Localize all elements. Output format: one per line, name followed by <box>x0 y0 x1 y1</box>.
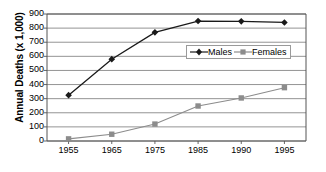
diamond-marker-icon <box>281 19 288 26</box>
square-marker-icon <box>239 95 244 100</box>
diamond-marker-icon <box>190 47 208 57</box>
data-series-layer <box>65 18 287 142</box>
legend-label-males: Males <box>208 47 232 57</box>
square-marker-icon <box>195 103 200 108</box>
plot-area <box>0 0 326 172</box>
square-marker-icon <box>66 136 71 141</box>
legend-label-females: Females <box>252 47 287 57</box>
line-chart: Annual Deaths (x 1,000) 0100200300400500… <box>0 0 326 172</box>
series-females <box>66 85 287 142</box>
square-marker-icon <box>234 47 252 57</box>
gridlines <box>44 14 306 141</box>
legend-entry-females: Females <box>234 47 287 57</box>
axis-lines <box>47 14 306 141</box>
square-marker-icon <box>152 121 157 126</box>
square-marker-icon <box>109 132 114 137</box>
series-line <box>69 88 285 139</box>
legend-entry-males: Males <box>190 47 232 57</box>
diamond-marker-icon <box>152 29 159 36</box>
diamond-marker-icon <box>238 18 245 25</box>
diamond-marker-icon <box>195 18 202 25</box>
chart-legend: Males Females <box>186 45 291 59</box>
square-marker-icon <box>282 85 287 90</box>
